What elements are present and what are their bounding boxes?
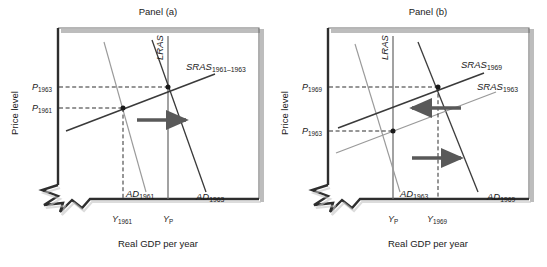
ad-as-figure: Panel (a) Price level Real GDP per year: [0, 0, 547, 267]
panel-a-equilibrium-1961: [121, 106, 126, 111]
panel-a-y-axis-label: Price level: [9, 91, 20, 135]
panel-b-equilibrium-1963: [391, 129, 396, 134]
panel-b-title: Panel (b): [409, 6, 448, 17]
panel-a-x-axis-label: Real GDP per year: [118, 238, 198, 249]
panel-b-lras-label: LRAS: [379, 35, 390, 60]
panel-a-equilibrium-1963: [166, 85, 171, 90]
figure-background: [0, 0, 547, 267]
panel-b-y-axis-label: Price level: [279, 91, 290, 135]
panel-a-lras-label: LRAS: [154, 35, 165, 60]
panel-a-title: Panel (a): [139, 6, 178, 17]
panel-b-equilibrium-1969: [436, 85, 441, 90]
panel-b-x-axis-label: Real GDP per year: [388, 238, 468, 249]
